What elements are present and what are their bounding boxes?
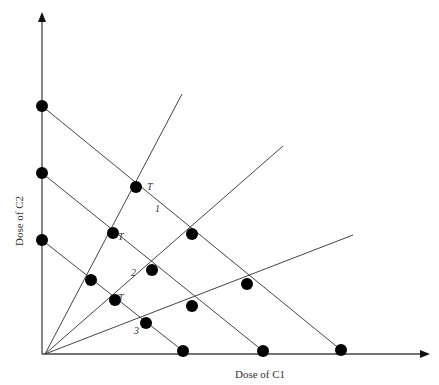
data-point xyxy=(140,317,152,329)
isobole-label: 1 xyxy=(155,203,160,214)
data-point xyxy=(186,300,198,312)
data-point xyxy=(36,100,48,112)
fixed-ratio-rays xyxy=(45,94,353,354)
axes xyxy=(38,12,430,358)
data-point xyxy=(36,234,48,246)
isobole-2 xyxy=(42,173,263,351)
data-point xyxy=(257,345,269,357)
x-axis-label: Dose of C1 xyxy=(235,368,285,380)
data-point xyxy=(85,274,97,286)
t-label: T xyxy=(118,231,125,242)
isobole-label: 3 xyxy=(133,325,139,336)
ray-steep xyxy=(45,94,182,354)
ray-mid xyxy=(45,146,283,354)
data-point xyxy=(36,167,48,179)
data-point xyxy=(186,228,198,240)
x-axis-arrow-icon xyxy=(420,350,430,358)
isobole-1 xyxy=(42,106,341,350)
data-point xyxy=(241,278,253,290)
ray-flat xyxy=(45,235,353,354)
data-point xyxy=(335,344,347,356)
y-axis-label: Dose of C2 xyxy=(13,196,25,246)
y-axis-arrow-icon xyxy=(38,12,46,22)
isobole-label: 2 xyxy=(131,267,136,278)
data-point xyxy=(130,181,142,193)
data-point xyxy=(177,345,189,357)
t-label: T xyxy=(118,292,125,303)
t-label: T xyxy=(147,181,154,192)
isobologram-diagram: Dose of C1 Dose of C2 TTT123 xyxy=(0,0,439,385)
data-point xyxy=(146,264,158,276)
